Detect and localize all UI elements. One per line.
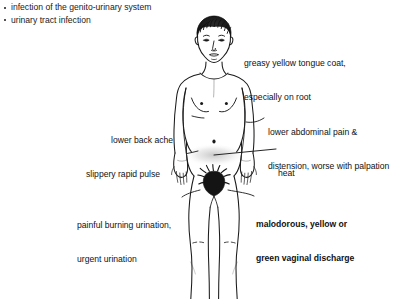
- left-knee-line: [193, 242, 204, 243]
- annotation-discharge: malodorous, yellow or green vaginal disc…: [256, 196, 354, 287]
- right-breast-contour: [220, 98, 237, 112]
- annotation-tongue-line2: especially on root: [244, 92, 346, 103]
- pubic-hair: [203, 171, 225, 196]
- collarbone-line: [200, 73, 228, 79]
- annotation-backache-line1: lower back ache: [111, 135, 173, 146]
- annotation-urination: painful burning urination, urgent urinat…: [77, 197, 171, 288]
- left-arm-outer: [174, 98, 177, 153]
- left-breast-contour: [192, 98, 209, 112]
- right-eyebrow: [219, 35, 225, 36]
- annotation-urination-line1: painful burning urination,: [77, 220, 171, 231]
- left-groin-line: [210, 196, 214, 207]
- left-shoulder-contour: [177, 74, 201, 98]
- annotation-discharge-line1: malodorous, yellow or: [256, 219, 354, 230]
- annotation-tongue-line1: greasy yellow tongue coat,: [244, 58, 346, 69]
- neck-left-contour: [202, 62, 206, 74]
- diagram-page: infection of the genito-urinary system u…: [0, 0, 415, 299]
- right-leg-inner: [218, 207, 220, 299]
- leader-line-discharge: [228, 190, 254, 196]
- annotation-urination-line2: urgent urination: [77, 254, 171, 265]
- annotation-discharge-line2: green vaginal discharge: [256, 253, 354, 264]
- right-groin-line: [214, 196, 218, 207]
- annotation-heat-line1: heat: [278, 168, 295, 179]
- mouth-upper: [210, 54, 219, 55]
- left-wrist-crease: [178, 160, 187, 161]
- right-calf-hint: [233, 262, 238, 274]
- right-leg-outer: [234, 176, 239, 299]
- nose: [212, 41, 215, 50]
- annotation-abdominal-line1: lower abdominal pain &: [268, 127, 389, 138]
- mouth-lower: [210, 55, 218, 56]
- neck-right-contour: [222, 62, 226, 74]
- left-eye: [204, 39, 210, 41]
- left-leg-outer: [189, 176, 194, 299]
- left-eyebrow: [203, 35, 209, 36]
- left-calf-hint: [191, 262, 196, 274]
- right-nipple: [225, 102, 228, 105]
- annotation-pulse: slippery rapid pulse: [86, 146, 160, 203]
- right-wrist-crease: [241, 160, 250, 161]
- right-eye: [219, 39, 225, 41]
- annotation-heat: heat: [278, 145, 295, 202]
- left-leg-inner: [208, 207, 210, 299]
- left-nipple: [200, 102, 203, 105]
- leader-line-backache: [192, 116, 204, 118]
- navel: [212, 140, 215, 144]
- annotation-pulse-line1: slippery rapid pulse: [86, 169, 160, 180]
- right-knee-line: [224, 242, 235, 243]
